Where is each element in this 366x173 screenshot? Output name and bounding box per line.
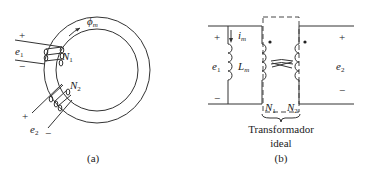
caption-a: (a) [87, 152, 100, 165]
e1-minus-sign: − [19, 60, 25, 72]
core-outer-edge [44, 17, 150, 123]
n2-label: N2 [69, 79, 81, 93]
e1-label: e1 [212, 60, 221, 74]
ideal-transformer-label-line1: Transformador [248, 123, 314, 135]
figure-a-toroid: ϕm + e1 − N1 [15, 15, 150, 165]
figure-b-equivalent-circuit: im Lm + e1 − N1 [208, 17, 354, 165]
core-inner-edge [56, 29, 138, 111]
e1-minus-sign: − [214, 92, 220, 104]
e1-plus-sign: + [19, 29, 25, 41]
ideal-transformer-brace [262, 114, 300, 122]
e2-label: e2 [30, 123, 39, 137]
magnetizing-inductor [228, 44, 232, 80]
caption-b: (b) [275, 152, 288, 165]
core-coupling-lines [271, 60, 293, 69]
ideal-transformer-label-line2: ideal [270, 137, 291, 149]
polarity-dot-primary [268, 40, 271, 43]
transformer-diagram: ϕm + e1 − N1 [0, 0, 366, 173]
n2-label: N2 [286, 101, 298, 115]
secondary-winding [295, 26, 307, 104]
im-label: im [238, 29, 246, 43]
e1-plus-sign: + [214, 31, 220, 43]
winding-n2 [32, 84, 72, 128]
e2-plus-sign: + [22, 110, 28, 122]
polarity-dot-secondary [303, 40, 306, 43]
lm-label: Lm [237, 60, 249, 74]
e1-label: e1 [15, 45, 24, 59]
e2-label: e2 [336, 60, 345, 74]
n1-label: N1 [264, 101, 276, 115]
e2-minus-sign: − [45, 127, 51, 139]
e2-minus-sign: − [339, 84, 345, 96]
e2-plus-sign: + [339, 31, 345, 43]
n1-label: N1 [61, 50, 73, 64]
current-arrowhead-icon [229, 38, 233, 43]
